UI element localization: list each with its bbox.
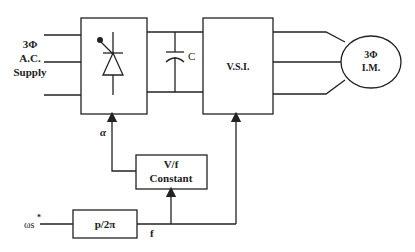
vsi-label: V.S.I. xyxy=(227,61,250,72)
supply-label-1: 3Φ xyxy=(23,38,38,50)
rectifier-block xyxy=(81,18,147,114)
alpha-signal-line xyxy=(112,117,136,171)
output-line-1 xyxy=(273,32,345,42)
block-diagram: 3Φ A.C. Supply C V.S.I. 3Φ I.M. V/f Cons… xyxy=(0,0,415,252)
capacitor-icon xyxy=(166,32,184,92)
vf-label-2: Constant xyxy=(150,172,193,184)
thyristor-gate-dot xyxy=(97,37,103,43)
frequency-label: f xyxy=(150,227,154,239)
vf-label-1: V/f xyxy=(164,158,179,170)
thyristor-icon xyxy=(101,32,123,95)
supply-label-2: A.C. xyxy=(19,52,41,64)
motor-label-1: 3Φ xyxy=(364,49,377,60)
supply-label-3: Supply xyxy=(13,66,47,78)
input-label: ωs xyxy=(24,219,35,230)
capacitor-label: C xyxy=(188,50,195,62)
gain-label: p/2π xyxy=(95,218,116,230)
input-superscript: * xyxy=(37,213,41,222)
motor-label-2: I.M. xyxy=(362,62,381,73)
output-line-3 xyxy=(273,80,345,94)
alpha-label: α xyxy=(100,126,107,138)
